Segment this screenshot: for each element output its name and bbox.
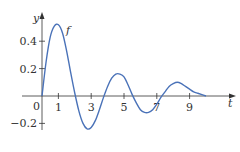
- curve-label: f: [65, 24, 72, 37]
- y-tick-label: 0.2: [20, 63, 38, 76]
- axes: 135790.40.2−0.2: [10, 12, 236, 130]
- y-tick-label: −0.2: [10, 117, 37, 130]
- y-axis-label: y: [32, 12, 40, 25]
- x-tick-label: 1: [55, 101, 62, 114]
- x-tick-label: 3: [88, 101, 95, 114]
- x-tick-label: 5: [121, 101, 128, 114]
- chart: 135790.40.2−0.2 y t f 0: [0, 0, 240, 152]
- x-axis-label: t: [228, 97, 233, 110]
- x-tick-label: 9: [186, 101, 193, 114]
- y-tick-label: 0.4: [20, 35, 38, 48]
- origin-label: 0: [33, 100, 40, 113]
- y-axis-arrow-icon: [40, 12, 45, 19]
